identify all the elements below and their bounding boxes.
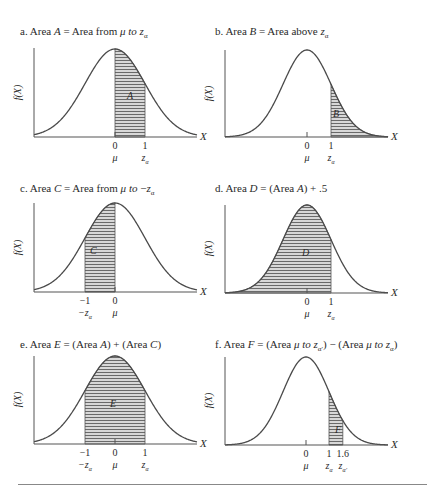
tick-value: 1.6 (328, 448, 358, 459)
normal-curve (225, 357, 388, 445)
shaded-area-f (329, 392, 343, 445)
x-axis-label: X (391, 438, 398, 450)
figure-bottom-rule (18, 484, 427, 485)
tick-symbol: zα′ (328, 460, 358, 473)
y-axis-label: f(X) (203, 393, 214, 409)
normal-curve-plot (0, 0, 427, 494)
area-label: F (335, 424, 341, 435)
